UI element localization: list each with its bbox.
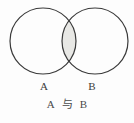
caption-left-term: A bbox=[47, 99, 55, 110]
venn-diagram-figure: A B A 与 B bbox=[0, 0, 134, 123]
set-b-label: B bbox=[84, 81, 100, 92]
caption: A 与 B bbox=[0, 99, 134, 110]
caption-conjunction: 与 bbox=[62, 99, 73, 110]
set-a-label: A bbox=[36, 81, 52, 92]
caption-right-term: B bbox=[80, 99, 87, 110]
